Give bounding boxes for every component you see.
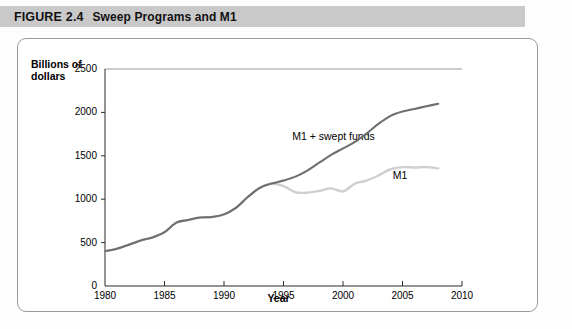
figure-header-band: FIGURE2.4Sweep Programs and M1 [0, 6, 525, 27]
figure-number: 2.4 [66, 10, 84, 24]
line-chart-svg [18, 39, 539, 313]
figure-title: Sweep Programs and M1 [93, 10, 237, 24]
chart-plot-area: Billions of dollars Year 050010001500200… [18, 39, 539, 313]
figure-word: FIGURE [14, 10, 62, 24]
figure-card: Billions of dollars Year 050010001500200… [17, 38, 538, 312]
figure-page: FIGURE2.4Sweep Programs and M1 Billions … [0, 0, 572, 329]
figure-caption [17, 320, 517, 328]
figure-header-text: FIGURE2.4Sweep Programs and M1 [14, 10, 237, 24]
